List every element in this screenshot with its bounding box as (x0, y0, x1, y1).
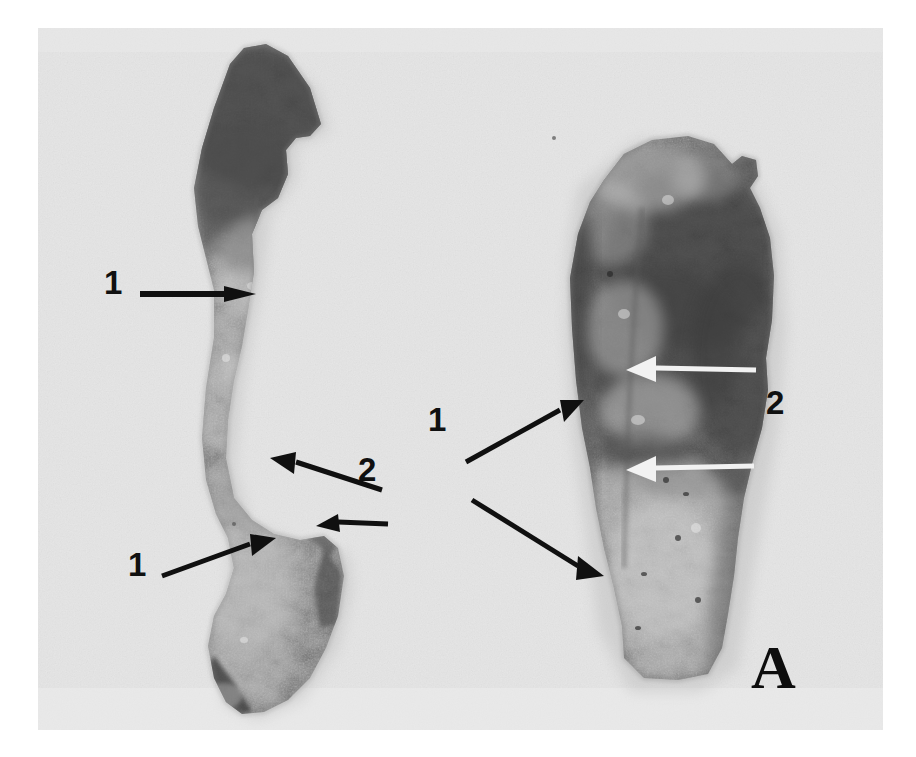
annotation-label-left-1-bottom: 1 (128, 548, 146, 581)
panel-letter-label: A (751, 636, 796, 698)
photograph-plate: 1 2 1 1 2 A (38, 28, 883, 730)
annotation-label-left-2: 2 (358, 453, 376, 486)
specimen-photograph (38, 28, 883, 730)
figure-root: 1 2 1 1 2 A (0, 0, 916, 757)
annotation-label-right-2: 2 (766, 386, 784, 419)
annotation-label-right-1: 1 (428, 403, 446, 436)
annotation-label-left-1-top: 1 (104, 266, 122, 299)
